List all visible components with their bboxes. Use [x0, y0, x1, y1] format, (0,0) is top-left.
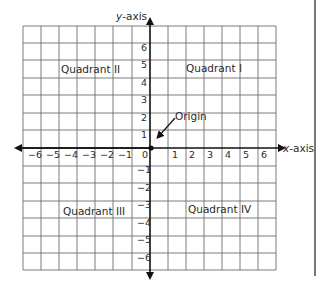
origin-pointer-arrow [159, 118, 175, 136]
y-tick-labels-negative: −1 −2 −3 −4 −5 −6 [137, 164, 151, 263]
svg-text:−2: −2 [137, 182, 151, 193]
svg-text:−5: −5 [46, 149, 60, 160]
svg-text:1: 1 [141, 129, 147, 140]
svg-text:−2: −2 [100, 149, 114, 160]
svg-text:−6: −6 [28, 149, 42, 160]
y-axis-label: y-axis [115, 10, 147, 22]
svg-text:−4: −4 [64, 149, 78, 160]
svg-text:0: 0 [142, 149, 148, 160]
x-axis-label: x-axis [282, 142, 314, 154]
svg-text:2: 2 [189, 149, 195, 160]
svg-text:2: 2 [141, 112, 147, 123]
svg-text:3: 3 [141, 94, 147, 105]
coordinate-plane-figure: y-axis x-axis Origin Quadrant I Quadrant… [0, 0, 322, 286]
svg-text:−6: −6 [137, 252, 151, 263]
quadrant-1-label: Quadrant I [186, 62, 242, 74]
svg-text:3: 3 [207, 149, 213, 160]
x-tick-labels: −6 −5 −4 −3 −2 −1 0 1 2 3 4 5 6 [28, 149, 267, 160]
svg-text:−3: −3 [82, 149, 96, 160]
svg-text:1: 1 [172, 149, 178, 160]
svg-text:−5: −5 [137, 234, 151, 245]
quadrant-4-label: Quadrant IV [188, 203, 252, 215]
origin-label: Origin [175, 110, 207, 122]
svg-text:−1: −1 [137, 164, 151, 175]
quadrant-2-label: Quadrant II [61, 63, 120, 75]
svg-text:−4: −4 [137, 217, 151, 228]
svg-text:−3: −3 [137, 199, 151, 210]
svg-text:−1: −1 [118, 149, 132, 160]
origin-point [148, 145, 153, 150]
svg-text:5: 5 [141, 59, 147, 70]
y-tick-labels-positive: 6 5 4 3 2 1 [141, 42, 147, 140]
svg-text:4: 4 [141, 77, 147, 88]
svg-text:5: 5 [243, 149, 249, 160]
quadrant-3-label: Quadrant III [63, 205, 125, 217]
svg-text:6: 6 [261, 149, 267, 160]
svg-text:6: 6 [141, 42, 147, 53]
svg-text:4: 4 [225, 149, 231, 160]
